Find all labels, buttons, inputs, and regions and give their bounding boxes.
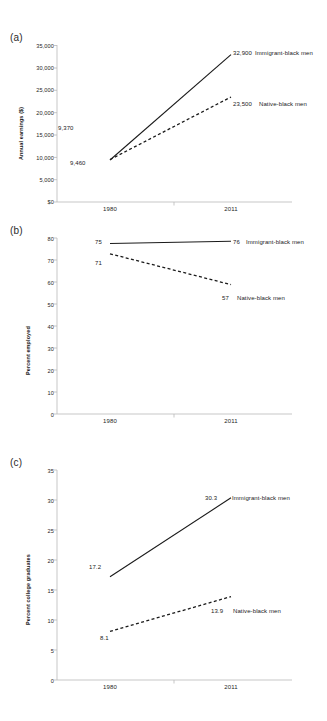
point-label-b-immigrant-start: 75 xyxy=(95,239,102,245)
point-label-c-native-end: 13.9 xyxy=(211,608,223,614)
series-label-b-immigrant: Immigrant-black men xyxy=(246,239,304,245)
point-label-b-native-end: 57 xyxy=(222,295,229,301)
point-label-c-immigrant-start: 17.2 xyxy=(89,564,101,570)
plot-area-c xyxy=(0,435,327,721)
series-line-immigrant-b xyxy=(110,241,231,243)
x-tick-c-2011: 2011 xyxy=(211,684,251,690)
series-line-native-a xyxy=(110,97,231,160)
point-label-a-immigrant-end: 32,900 xyxy=(233,50,252,56)
point-label-b-native-start: 71 xyxy=(95,260,102,266)
chart-panel-b: (b) Percent employed 80 70 60 50 40 30 2… xyxy=(0,215,327,435)
plot-area-a xyxy=(0,0,327,215)
x-tick-a-2011: 2011 xyxy=(211,206,251,212)
series-label-a-native: Native-black men xyxy=(259,101,307,107)
point-label-b-immigrant-end: 76 xyxy=(233,239,240,245)
x-tick-b-2011: 2011 xyxy=(211,418,251,424)
chart-panel-a: (a) Annual earnings ($) 35,000 30,000 25… xyxy=(0,0,327,215)
series-label-b-native: Native-black men xyxy=(237,295,285,301)
series-line-native-b xyxy=(110,254,231,285)
plot-area-b xyxy=(0,215,327,435)
series-label-a-immigrant: Immigrant-black men xyxy=(255,50,313,56)
series-line-immigrant-c xyxy=(110,498,231,577)
point-label-c-immigrant-end: 30.3 xyxy=(205,495,217,501)
point-label-a-immigrant-start: 9,370 xyxy=(58,125,74,131)
x-tick-b-1980: 1980 xyxy=(90,418,130,424)
chart-panel-c: (c) Percent college graduates 35 30 25 2… xyxy=(0,435,327,721)
series-line-immigrant-a xyxy=(110,55,231,160)
series-label-c-native: Native-black men xyxy=(233,608,281,614)
point-label-a-native-end: 23,500 xyxy=(233,101,252,107)
series-label-c-immigrant: Immigrant-black men xyxy=(232,495,290,501)
x-tick-a-1980: 1980 xyxy=(90,206,130,212)
point-label-a-native-start: 9,460 xyxy=(70,160,86,166)
series-line-native-c xyxy=(110,597,231,632)
point-label-c-native-start: 8.1 xyxy=(100,635,109,641)
x-tick-c-1980: 1980 xyxy=(90,684,130,690)
